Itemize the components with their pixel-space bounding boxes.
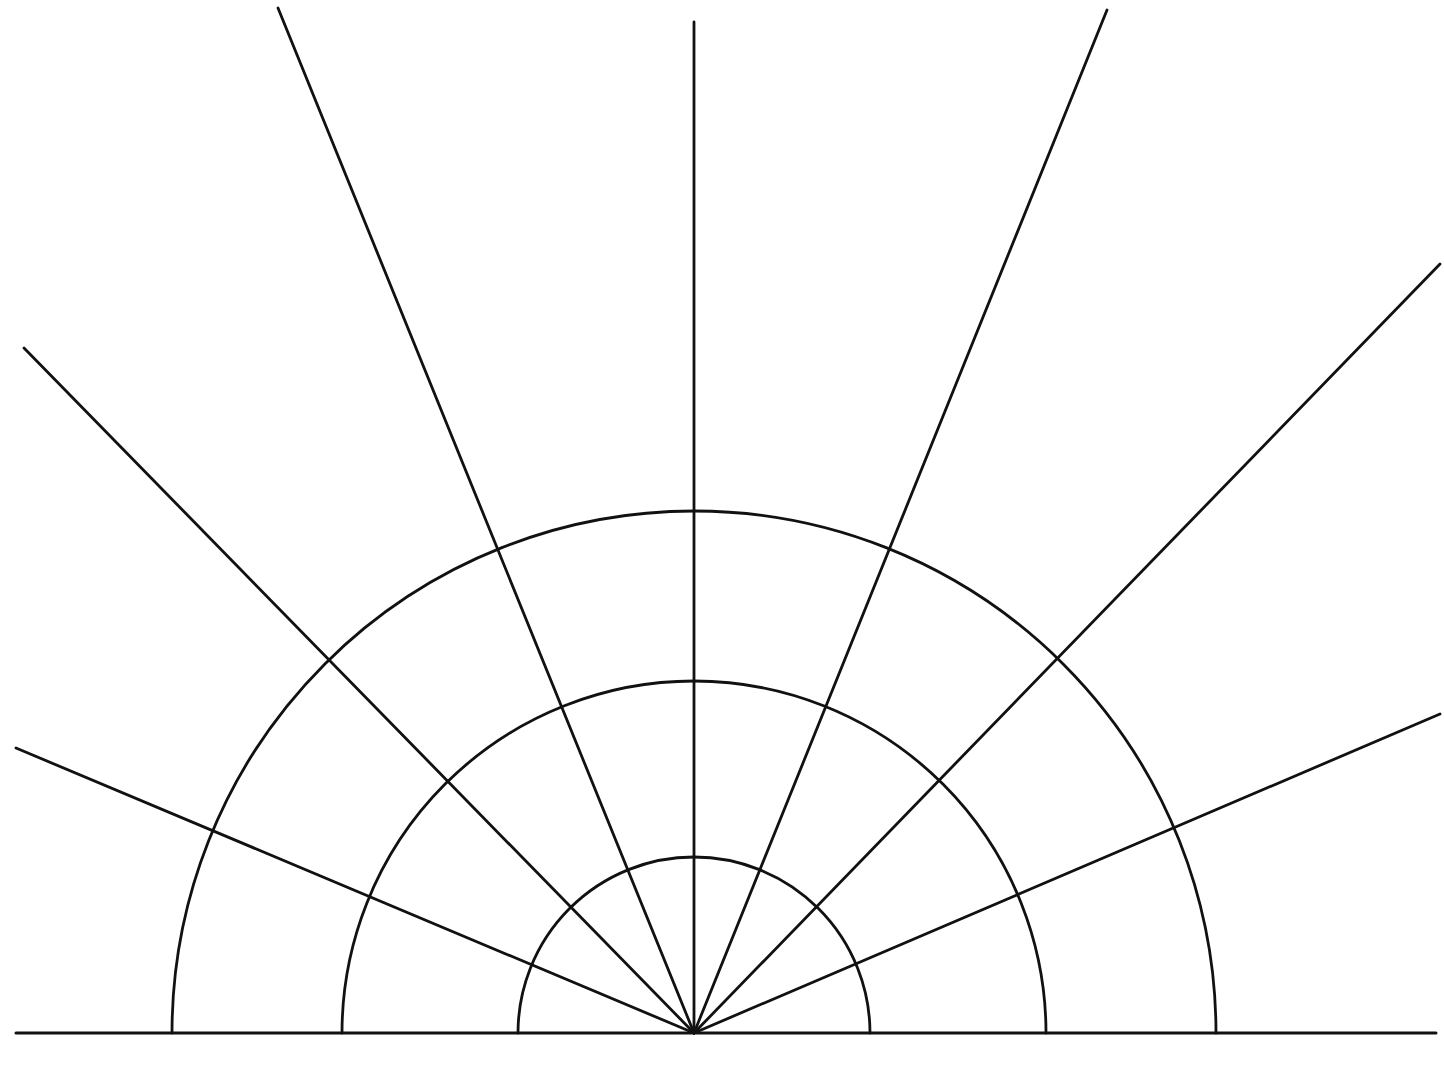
ray-right-low (694, 714, 1440, 1033)
ray-left-mid (24, 348, 694, 1033)
radial-rays (16, 8, 1440, 1033)
polar-grid-diagram (0, 0, 1444, 1081)
ray-right-high (694, 10, 1107, 1033)
ray-right-mid (694, 264, 1440, 1033)
ray-left-high (278, 8, 694, 1033)
